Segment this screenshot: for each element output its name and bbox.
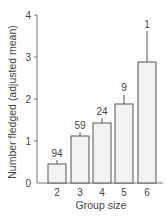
sample-size-4: 24 (96, 106, 108, 117)
bar-group-5 (115, 104, 133, 183)
y-tick-4: 4 (25, 10, 31, 21)
x-tick-4: 4 (99, 187, 105, 198)
bar-group-6 (138, 62, 156, 183)
sample-size-6: 1 (144, 19, 150, 30)
bar-group-3 (71, 136, 89, 183)
y-tick-3: 3 (25, 52, 31, 63)
x-ticks: 2 3 4 5 6 (54, 187, 150, 198)
y-tick-1: 1 (25, 136, 31, 147)
x-axis-label: Group size (76, 199, 127, 211)
sample-size-3: 59 (74, 120, 86, 131)
bar-chart: Number fledged (adjusted mean) 0 1 2 3 4… (0, 0, 167, 218)
bar-group-4 (93, 123, 111, 183)
x-tick-2: 2 (54, 187, 60, 198)
y-axis-label: Number fledged (adjusted mean) (6, 25, 18, 179)
x-tick-3: 3 (77, 187, 83, 198)
sample-size-5: 9 (121, 82, 127, 93)
sample-size-2: 94 (51, 148, 63, 159)
y-tick-0: 0 (25, 178, 31, 189)
bar-group-2 (48, 164, 66, 183)
x-tick-5: 5 (121, 187, 127, 198)
bars: 94 59 24 9 1 (48, 19, 156, 183)
y-tick-2: 2 (25, 94, 31, 105)
x-tick-6: 6 (144, 187, 150, 198)
y-ticks: 0 1 2 3 4 (25, 10, 37, 189)
